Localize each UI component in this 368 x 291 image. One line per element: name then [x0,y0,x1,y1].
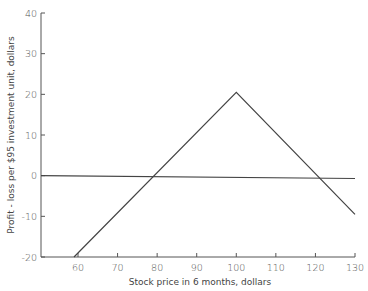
zero-line [41,176,355,179]
y-tick-label: 40 [25,8,37,19]
x-tick-label: 120 [306,262,324,273]
profit-loss-chart: -20-10010203040 60708090100110120130 Sto… [0,0,368,291]
y-tick-label: 30 [25,48,37,59]
y-tick-label: -10 [21,211,37,222]
x-tick-label: 90 [191,262,203,273]
y-axis: -20-10010203040 [21,8,45,263]
y-tick-label: -20 [21,252,37,263]
y-tick-label: 20 [25,89,37,100]
x-tick-label: 60 [72,262,84,273]
x-tick-label: 80 [151,262,163,273]
y-tick-label: 0 [31,170,37,181]
y-axis-title: Profit - loss per $95 investment unit, d… [6,36,16,234]
x-tick-label: 100 [227,262,245,273]
x-axis-title: Stock price in 6 months, dollars [129,277,272,287]
x-tick-label: 110 [267,262,285,273]
x-axis: 60708090100110120130 [41,253,364,273]
x-tick-label: 130 [346,262,364,273]
y-tick-label: 10 [25,130,37,141]
profit-loss-line [74,92,355,257]
plot-lines [41,92,355,257]
x-tick-label: 70 [112,262,124,273]
